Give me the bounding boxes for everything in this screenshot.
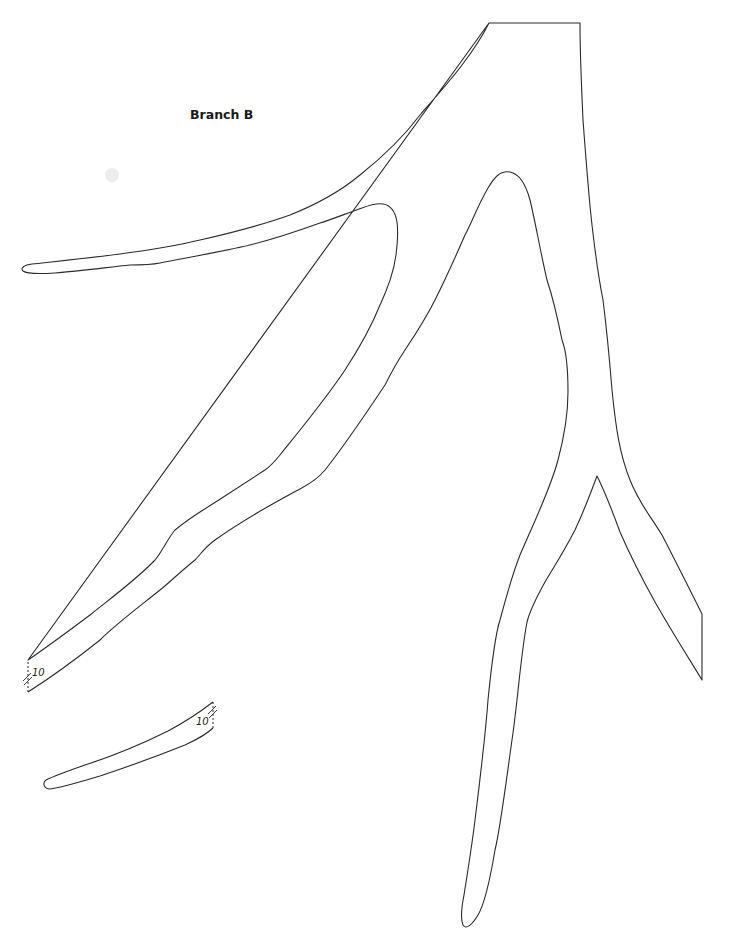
pattern-drawing: 10 10 xyxy=(0,0,734,930)
seam-label-piece: 10 xyxy=(196,716,209,727)
seam-label-main: 10 xyxy=(32,667,45,678)
tine-piece-outline xyxy=(44,702,213,789)
main-branch-outline-upper xyxy=(22,23,489,660)
main-branch-outline xyxy=(28,23,702,927)
